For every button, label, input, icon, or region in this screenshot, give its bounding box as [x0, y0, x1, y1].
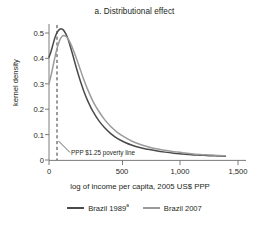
x-axis-title: log of income per capita, 2005 US$ PPP [20, 182, 260, 191]
distributional-effect-figure: a. Distributional effect kernel density … [0, 0, 269, 225]
y-axis-ticks [45, 33, 49, 160]
legend-entry-brazil-2007[interactable]: Brazil 2007 [143, 203, 202, 213]
plot-area [0, 0, 269, 225]
poverty-line-annotation: PPP $1.25 poverty line [71, 149, 135, 156]
legend-swatch-brazil-1989 [67, 207, 84, 209]
legend-swatch-brazil-2007 [143, 207, 160, 209]
axes [45, 24, 246, 165]
x-axis-ticks [49, 160, 238, 165]
legend: Brazil 1989a Brazil 2007 [0, 203, 269, 213]
density-curve-brazil-1989 [49, 29, 225, 156]
legend-label-brazil-2007: Brazil 2007 [164, 203, 202, 213]
poverty-line-leader [59, 141, 71, 153]
legend-entry-brazil-1989[interactable]: Brazil 1989a [67, 203, 129, 213]
density-curve-brazil-2007 [49, 36, 225, 156]
legend-label-brazil-1989: Brazil 1989a [88, 203, 129, 213]
